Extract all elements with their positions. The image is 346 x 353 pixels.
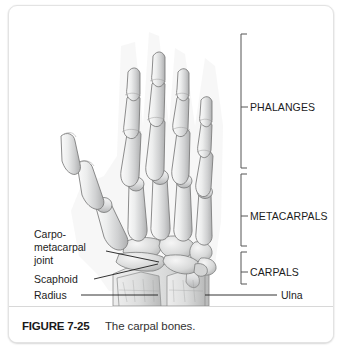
right-brackets: [241, 34, 248, 284]
hand-skeleton-illustration: Carpo- metacarpal joint Scaphoid Radius …: [9, 6, 333, 306]
label-carpometacarpal-line3: joint: [33, 254, 53, 266]
label-scaphoid: Scaphoid: [34, 273, 78, 285]
label-ulna: Ulna: [281, 289, 303, 301]
figure-caption: FIGURE 7-25 The carpal bones.: [22, 316, 195, 334]
bracket-metacarpals: [241, 174, 247, 246]
label-metacarpals: METACARPALS: [250, 210, 328, 222]
bracket-phalanges: [241, 34, 247, 168]
label-carpometacarpal-line2: metacarpal: [34, 241, 86, 253]
illustration-area: Carpo- metacarpal joint Scaphoid Radius …: [9, 6, 333, 306]
label-carpals: CARPALS: [250, 266, 299, 278]
label-phalanges: PHALANGES: [250, 101, 315, 113]
bracket-carpals: [241, 252, 247, 284]
figure-caption-bar: FIGURE 7-25 The carpal bones.: [9, 306, 333, 342]
label-carpometacarpal-line1: Carpo-: [34, 228, 67, 240]
figure-number: FIGURE 7-25: [22, 320, 89, 332]
label-radius: Radius: [34, 289, 67, 301]
figure-card: Carpo- metacarpal joint Scaphoid Radius …: [8, 5, 334, 343]
figure-caption-text: The carpal bones.: [105, 320, 195, 332]
